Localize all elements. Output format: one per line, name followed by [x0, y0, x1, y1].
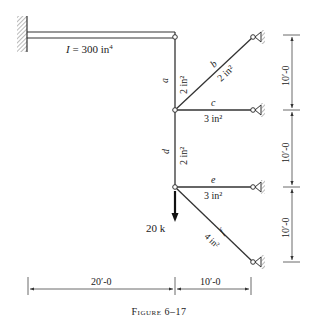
beam — [27, 32, 175, 38]
load-label: 20 k — [146, 222, 166, 234]
member-a-area: 2 in² — [178, 76, 189, 94]
dim-horizontal-1: 20′-0 — [91, 276, 112, 287]
fixed-support-icon — [17, 16, 27, 52]
member-e-area: 3 in² — [204, 190, 222, 201]
member-f-area: 4 in² — [203, 231, 222, 250]
pin-joint-icon — [173, 35, 178, 40]
pin-joint-icon — [173, 185, 178, 190]
pin-support-icon — [251, 180, 265, 194]
beam-inertia-label: I = 300 in4 — [65, 43, 113, 55]
dim-vertical-1: 10′-0 — [280, 65, 291, 86]
member-a-label: a — [159, 78, 170, 83]
dim-vertical-2: 10′-0 — [280, 142, 291, 163]
load-arrow-icon — [172, 191, 179, 222]
member-d-label: d — [160, 148, 171, 154]
pin-support-icon — [251, 103, 265, 117]
figure-caption: Figure 6–17 — [132, 306, 187, 317]
dim-vertical-3: 10′-0 — [280, 217, 291, 238]
member-e-label: e — [211, 174, 216, 185]
structure-diagram: I = 300 in4 a 2 in² b 2 in² c 3 in² d 2 … — [0, 0, 318, 327]
pin-support-icon — [251, 255, 265, 269]
member-c-area: 3 in² — [204, 113, 222, 124]
member-b-label: b — [208, 58, 219, 69]
pin-support-icon — [251, 30, 265, 44]
member-f-label: f — [217, 226, 228, 237]
member-c-label: c — [211, 97, 216, 108]
member-d-area: 2 in² — [178, 147, 189, 165]
pin-joint-icon — [173, 108, 178, 113]
dim-horizontal-2: 10′-0 — [200, 276, 221, 287]
